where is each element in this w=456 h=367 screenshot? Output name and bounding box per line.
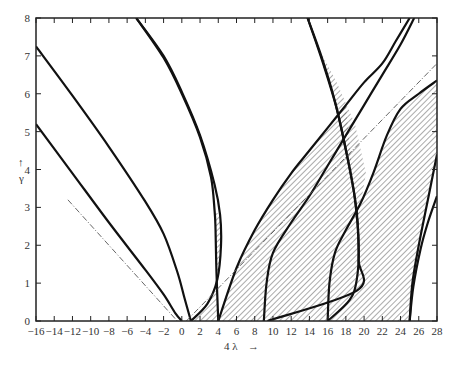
x-tick-label: 28 <box>432 325 444 337</box>
x-tick-label: 2 <box>197 325 203 337</box>
x-axis-title: 4 λ <box>224 340 238 352</box>
x-tick-label: −6 <box>121 325 133 337</box>
x-tick-label: 14 <box>304 325 316 337</box>
x-tick-label: 26 <box>413 325 425 337</box>
y-tick-label: 5 <box>25 126 31 138</box>
y-tick-label: 0 <box>25 315 31 327</box>
x-tick-label: 16 <box>322 325 334 337</box>
x-tick-label: 0 <box>179 325 185 337</box>
y-tick-label: 8 <box>25 12 31 24</box>
x-tick-label: 4 <box>216 325 222 337</box>
x-tick-label: 12 <box>286 325 297 337</box>
y-tick-label: 4 <box>25 164 31 176</box>
x-tick-label: −10 <box>82 325 100 337</box>
dash-left <box>68 200 177 321</box>
x-tick-label: 22 <box>377 325 388 337</box>
x-tick-label: 8 <box>252 325 258 337</box>
x-axis-arrow: → <box>248 340 259 352</box>
y-tick-label: 3 <box>25 201 31 213</box>
y-tick-label: 7 <box>25 50 31 62</box>
x-tick-label: −8 <box>103 325 115 337</box>
y-tick-label: 2 <box>25 239 31 251</box>
x-tick-label: −4 <box>140 325 152 337</box>
stability-chart: −16−14−12−10−8−6−4−202468101214161820222… <box>0 0 456 367</box>
x-tick-label: −12 <box>64 325 81 337</box>
x-tick-label: 18 <box>340 325 352 337</box>
x-tick-label: −16 <box>27 325 45 337</box>
y-tick-label: 1 <box>25 277 31 289</box>
shaded-region-2 <box>218 80 437 321</box>
y-axis-arrow: ↑ <box>18 156 24 168</box>
y-tick-label: 6 <box>25 88 31 100</box>
x-tick-label: 24 <box>395 325 407 337</box>
curve-2 <box>36 46 191 321</box>
y-axis-title: γ <box>18 172 24 184</box>
curve-1 <box>36 124 182 321</box>
x-tick-label: 10 <box>267 325 279 337</box>
x-tick-label: −2 <box>158 325 170 337</box>
x-tick-label: 20 <box>359 325 371 337</box>
x-tick-label: 6 <box>234 325 240 337</box>
x-tick-label: −14 <box>46 325 64 337</box>
